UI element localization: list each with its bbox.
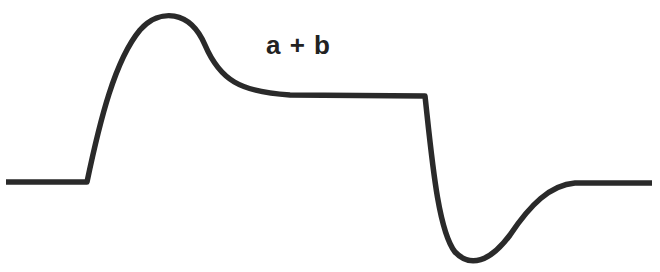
sum-label: a + b [266, 30, 331, 61]
waveform-diagram: a + b [0, 0, 660, 272]
